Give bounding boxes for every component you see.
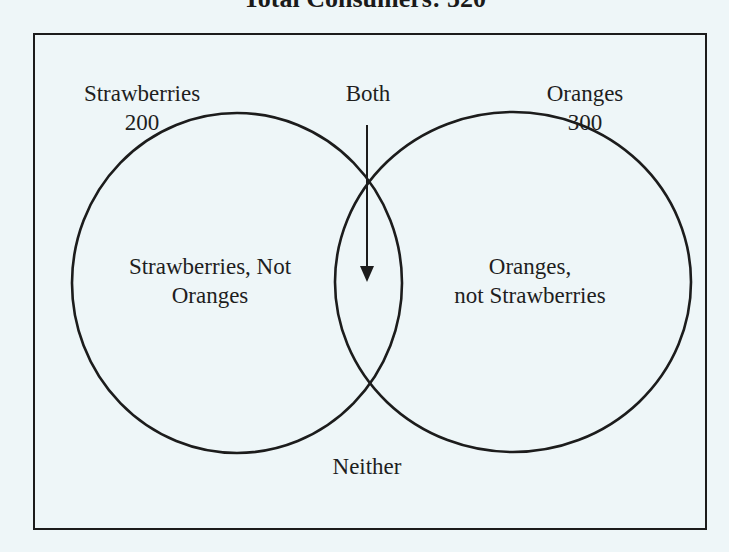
strawberries-only-line1: Strawberries, Not bbox=[100, 252, 320, 281]
oranges-only-line1: Oranges, bbox=[430, 252, 630, 281]
strawberries-set-label: Strawberries 200 bbox=[62, 79, 222, 137]
down-arrow-icon bbox=[360, 125, 374, 282]
neither-label: Neither bbox=[317, 452, 417, 481]
strawberries-count: 200 bbox=[62, 108, 222, 137]
both-label: Both bbox=[318, 79, 418, 108]
oranges-count: 300 bbox=[520, 108, 650, 137]
strawberries-only-region-label: Strawberries, Not Oranges bbox=[100, 252, 320, 310]
strawberries-name: Strawberries bbox=[62, 79, 222, 108]
oranges-only-line2: not Strawberries bbox=[430, 281, 630, 310]
oranges-name: Oranges bbox=[520, 79, 650, 108]
strawberries-only-line2: Oranges bbox=[100, 281, 320, 310]
oranges-set-label: Oranges 300 bbox=[520, 79, 650, 137]
oranges-only-region-label: Oranges, not Strawberries bbox=[430, 252, 630, 310]
